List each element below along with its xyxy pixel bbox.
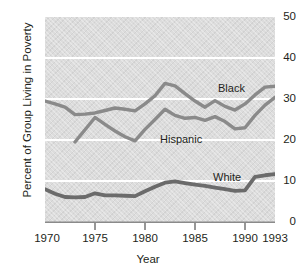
white-series-label: White xyxy=(213,172,241,183)
black-series-label: Black xyxy=(218,83,245,94)
poverty-line-chart: 50 40 30 20 10 0 Percent of Group Living… xyxy=(0,0,296,276)
x-tick-1970: 1970 xyxy=(34,233,60,245)
y-axis-title: Percent of Group Living in Poverty xyxy=(21,15,33,205)
x-axis-title: Year xyxy=(0,253,296,265)
x-tick-1990: 1990 xyxy=(232,233,258,245)
x-tick-1993: 1993 xyxy=(262,233,288,245)
x-tick-1975: 1975 xyxy=(82,233,108,245)
x-tick-1980: 1980 xyxy=(132,233,158,245)
plot-area: Black Hispanic White xyxy=(45,17,275,222)
series-canvas xyxy=(45,17,275,222)
gridlines xyxy=(45,58,275,181)
hispanic-series-label: Hispanic xyxy=(160,134,202,145)
x-tick-1985: 1985 xyxy=(182,233,208,245)
